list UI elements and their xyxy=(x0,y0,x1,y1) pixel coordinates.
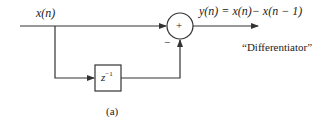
delay-exponent: −1 xyxy=(105,70,112,78)
output-label: y(n) = x(n)− x(n − 1) xyxy=(199,5,302,17)
diagram-title: “Differentiator” xyxy=(242,42,312,53)
delay-label: z−1 xyxy=(101,71,113,83)
input-label: x(n) xyxy=(36,7,55,19)
delay-branch-line xyxy=(55,26,94,78)
delayed-signal-line xyxy=(121,40,180,78)
minus-sign: − xyxy=(164,37,170,48)
adder-plus-sign: + xyxy=(176,20,182,31)
figure-caption: (a) xyxy=(106,106,118,117)
